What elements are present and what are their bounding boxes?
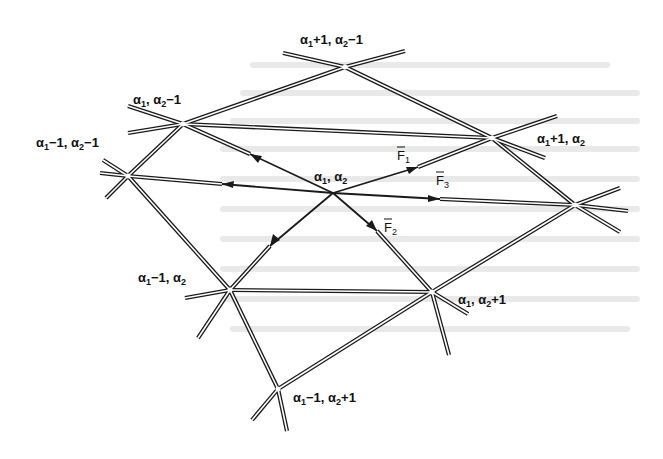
svg-text:F1: F1 xyxy=(397,148,410,165)
arrowhead-to-n2-icon xyxy=(250,154,262,163)
label-n4: α1+1, α2 xyxy=(537,131,585,148)
force-label-f1: F1 xyxy=(397,147,410,165)
lattice-force-diagram: .bo { stroke: #1a1a1a; stroke-width: 4.2… xyxy=(0,0,663,459)
force-label-f3: F3 xyxy=(436,172,449,190)
label-n1: α1+1, α2−1 xyxy=(300,32,363,49)
label-n8: α1−1, α2+1 xyxy=(293,390,356,407)
svg-text:F3: F3 xyxy=(436,173,449,190)
arrowhead-f2-icon xyxy=(366,220,377,231)
label-n2: α1, α2−1 xyxy=(133,92,181,109)
bonds-inner xyxy=(100,51,628,431)
arrowhead-f1-icon xyxy=(406,167,418,174)
label-n7: α1, α2+1 xyxy=(458,292,506,309)
arrowheads xyxy=(222,154,440,246)
arrowhead-to-n6-icon xyxy=(270,234,280,246)
label-n6: α1−1, α2 xyxy=(138,270,186,287)
svg-text:F2: F2 xyxy=(384,220,397,237)
bonds-outer xyxy=(100,51,628,431)
label-center: α1, α2 xyxy=(314,169,347,186)
node-labels: α1+1, α2−1 α1, α2−1 α1−1, α2−1 α1+1, α2 … xyxy=(36,32,585,407)
force-label-f2: F2 xyxy=(384,219,397,237)
arrowhead-to-n3-icon xyxy=(222,181,234,188)
arrowhead-f3-icon xyxy=(428,195,440,202)
label-n3: α1−1, α2−1 xyxy=(36,135,99,152)
